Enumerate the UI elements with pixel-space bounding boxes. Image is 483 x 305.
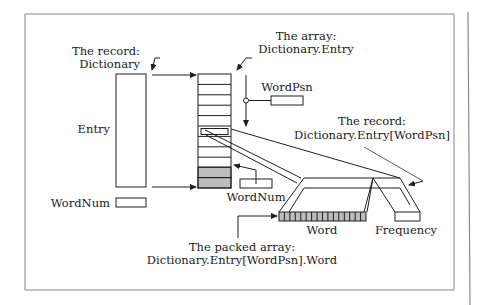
label-packed-array-2: Dictionary.Entry[WordPsn].Word — [147, 253, 338, 267]
pointer-array-entry — [237, 58, 252, 70]
label-wordpsn: WordPsn — [261, 80, 313, 94]
label-entry: Entry — [78, 122, 111, 136]
label-wordnum-right: WordNum — [226, 190, 285, 204]
label-word: Word — [307, 223, 338, 237]
label-frequency: Frequency — [375, 223, 438, 237]
page-margin-line — [468, 12, 470, 305]
frequency-field — [395, 212, 420, 221]
packed-array-word — [279, 212, 366, 221]
label-record-entry-2: Dictionary.Entry[WordPsn] — [294, 128, 450, 142]
diagram-canvas: The record: Dictionary Entry WordNum The… — [0, 0, 483, 305]
label-record-dictionary-2: Dictionary — [79, 57, 140, 71]
label-wordnum-left: WordNum — [51, 196, 110, 210]
record-entry-box — [116, 74, 146, 187]
label-packed-array-1: The packed array: — [189, 240, 295, 254]
label-array-entry-2: Dictionary.Entry — [258, 42, 354, 56]
selected-entry-cell — [201, 129, 228, 135]
index-pivot — [244, 98, 249, 103]
label-record-entry-1: The record: — [338, 114, 406, 128]
pointer-packed-array — [238, 216, 277, 238]
wordnum-left-box — [116, 198, 146, 207]
label-record-dictionary-1: The record: — [72, 44, 140, 58]
array-dictionary-entry — [198, 74, 231, 188]
label-array-entry-1: The array: — [276, 29, 337, 43]
pointer-record-entry-tip — [409, 181, 423, 185]
wordpsn-box — [271, 96, 303, 105]
pointer-record-dictionary — [152, 58, 160, 70]
